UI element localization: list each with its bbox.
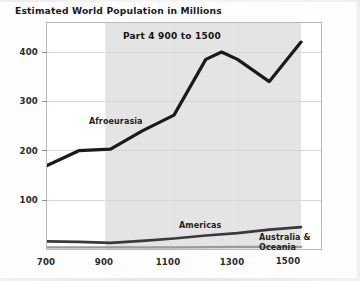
line-afroeurasia bbox=[47, 42, 301, 165]
scanned-page: Estimated World Population in Millions 4… bbox=[0, 0, 360, 281]
y-tick-label-300: 300 bbox=[8, 96, 38, 106]
series-label-australia-oceania: Australia & Oceania bbox=[259, 233, 321, 252]
x-tick-label-1300: 1300 bbox=[212, 257, 252, 267]
series-label-afroeurasia: Afroeurasia bbox=[89, 117, 143, 126]
page-right-edge bbox=[356, 0, 360, 281]
plot-area: Part 4 900 to 1500 Afroeurasia Americas … bbox=[46, 22, 322, 250]
y-tick-label-200: 200 bbox=[8, 146, 38, 156]
x-tick-label-700: 700 bbox=[26, 257, 66, 267]
x-tick-label-1100: 1100 bbox=[148, 257, 188, 267]
x-tick-label-900: 900 bbox=[84, 257, 124, 267]
y-tick-label-400: 400 bbox=[8, 47, 38, 57]
y-tick-label-100: 100 bbox=[8, 195, 38, 205]
x-tick-label-1500: 1500 bbox=[268, 256, 308, 266]
series-lines bbox=[47, 23, 323, 251]
page-title: Estimated World Population in Millions bbox=[15, 5, 222, 16]
series-label-americas: Americas bbox=[179, 221, 221, 230]
